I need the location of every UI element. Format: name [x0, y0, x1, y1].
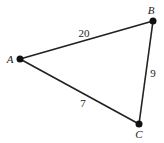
vertex-b — [150, 18, 157, 25]
edge-weight-a-c: 7 — [80, 97, 86, 109]
vertex-label-c: C — [135, 128, 143, 140]
vertex-label-a: A — [6, 53, 14, 65]
vertex-c — [136, 121, 143, 128]
triangle-graph: A B C 20 9 7 — [0, 0, 164, 143]
vertex-a — [17, 56, 24, 63]
edge-weight-a-b: 20 — [79, 27, 91, 39]
vertex-label-b: B — [148, 4, 155, 16]
edge-a-c — [20, 59, 139, 124]
edge-weight-b-c: 9 — [150, 67, 156, 79]
